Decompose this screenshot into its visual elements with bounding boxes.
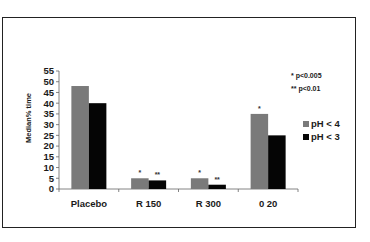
legend-swatch xyxy=(303,134,309,140)
y-tick-label: 0 xyxy=(49,183,54,194)
p-value-note: ** p<0.01 xyxy=(291,85,320,93)
bar-ph-lt-3 xyxy=(89,103,107,189)
significance-marker: ** xyxy=(214,176,220,183)
legend-label: pH < 3 xyxy=(311,131,340,142)
y-tick-label: 50 xyxy=(43,76,54,87)
bar-ph-lt-4 xyxy=(131,178,149,189)
significance-marker: * xyxy=(139,169,142,176)
y-tick-label: 30 xyxy=(43,119,54,130)
significance-marker: ** xyxy=(155,171,161,178)
x-category-label: Placebo xyxy=(71,198,108,209)
y-tick-label: 15 xyxy=(43,151,54,162)
x-category-label: R 300 xyxy=(196,198,221,209)
y-axis: 0510152025303540455055 xyxy=(43,65,59,194)
y-axis-title: Median% time xyxy=(24,93,33,143)
bar-ph-lt-4 xyxy=(71,86,89,189)
p-value-note: * p<0.005 xyxy=(291,72,322,80)
bar-ph-lt-4 xyxy=(191,178,209,189)
legend-label: pH < 4 xyxy=(311,118,340,129)
y-tick-label: 25 xyxy=(43,130,54,141)
significance-marker: * xyxy=(198,169,201,176)
bars: ******* xyxy=(71,86,285,189)
bar-ph-lt-3 xyxy=(268,135,286,189)
y-tick-label: 45 xyxy=(43,87,54,98)
significance-marker: * xyxy=(258,105,261,112)
significance-annotations: * p<0.005** p<0.01 xyxy=(291,72,322,93)
bar-ph-lt-3 xyxy=(208,185,226,189)
x-category-label: R 150 xyxy=(136,198,161,209)
y-tick-label: 35 xyxy=(43,108,54,119)
x-category-label: 0 20 xyxy=(259,198,278,209)
bar-ph-lt-3 xyxy=(149,180,167,189)
y-tick-label: 20 xyxy=(43,140,54,151)
y-tick-label: 5 xyxy=(49,173,55,184)
bar-chart: 0510152025303540455055 PlaceboR 150R 300… xyxy=(0,0,370,242)
legend-swatch xyxy=(303,121,309,127)
y-tick-label: 55 xyxy=(43,65,54,76)
bar-ph-lt-4 xyxy=(251,114,269,189)
legend: pH < 4pH < 3 xyxy=(303,118,340,142)
x-axis: PlaceboR 150R 3000 20 xyxy=(59,189,298,209)
y-tick-label: 10 xyxy=(43,162,54,173)
y-tick-label: 40 xyxy=(43,98,54,109)
